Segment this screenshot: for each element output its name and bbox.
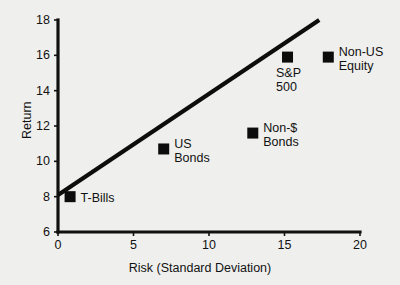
- y-tick-label: 16: [12, 49, 50, 62]
- point-label: S&P 500: [276, 66, 301, 94]
- data-marker: [158, 143, 169, 154]
- x-axis-title: Risk (Standard Deviation): [0, 262, 400, 275]
- point-label: Non-US Equity: [339, 45, 383, 73]
- x-tick-label: 5: [114, 239, 154, 252]
- y-tick-label: 6: [12, 226, 50, 239]
- point-label: Non-$ Bonds: [263, 121, 298, 149]
- data-marker: [247, 128, 258, 139]
- point-label: T-Bills: [81, 191, 115, 205]
- x-tick-label: 10: [189, 239, 229, 252]
- y-axis-title: Return: [21, 90, 34, 150]
- data-marker: [282, 52, 293, 63]
- data-marker: [65, 191, 76, 202]
- x-tick-label: 0: [38, 239, 78, 252]
- x-tick-label: 20: [340, 239, 380, 252]
- y-tick-label: 18: [12, 14, 50, 27]
- trend-line: [58, 20, 319, 195]
- y-tick-label: 8: [12, 191, 50, 204]
- x-tick-label: 15: [265, 239, 305, 252]
- risk-return-scatter-chart: 681012141618 05101520 T-BillsUS BondsNon…: [0, 0, 400, 285]
- y-tick-label: 10: [12, 155, 50, 168]
- data-marker: [323, 52, 334, 63]
- point-label: US Bonds: [174, 137, 209, 165]
